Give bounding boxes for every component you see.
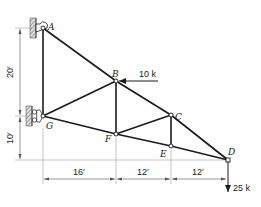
dim-12ft-2: 12′ [192, 167, 204, 177]
member-GB [43, 81, 116, 116]
joint-label-D: D [227, 147, 235, 157]
joint-label-A: A [47, 22, 55, 32]
dim-12ft-1: 12′ [137, 167, 149, 177]
truss-diagram: A G B F C E D 10 k 25 k 20′ 10′ 16′ 12′ … [0, 0, 261, 207]
joint-F [114, 132, 118, 136]
member-GF [43, 116, 116, 134]
joint-E [169, 144, 173, 148]
roller-icon [32, 110, 36, 114]
joint-A [41, 26, 45, 30]
joint-label-C: C [175, 112, 182, 122]
joint-D [226, 158, 230, 162]
member-FC [116, 115, 171, 134]
joint-label-E: E [159, 149, 167, 159]
load-D: 25 k [228, 162, 251, 193]
dim-20ft: 20′ [5, 66, 15, 78]
load-label-D: 25 k [233, 183, 251, 193]
vertical-dimensions: 20′ 10′ [5, 29, 20, 159]
member-AB [43, 28, 116, 81]
member-FE [116, 134, 171, 146]
joint-label-G: G [46, 121, 53, 131]
support-G [26, 106, 43, 126]
roller-icon [32, 118, 36, 122]
joint-C [169, 113, 173, 117]
load-label-B: 10 k [139, 69, 157, 79]
horizontal-dimensions: 16′ 12′ 12′ [44, 167, 226, 179]
extension-lines [15, 28, 228, 184]
joint-B [114, 79, 118, 83]
dim-10ft: 10′ [5, 132, 15, 144]
load-B: 10 k [119, 69, 158, 81]
member-BC [116, 81, 171, 115]
dim-16ft: 16′ [73, 167, 85, 177]
truss-members [43, 28, 228, 160]
joint-label-B: B [111, 69, 119, 79]
joint-label-F: F [104, 134, 112, 144]
joint-G [41, 114, 45, 118]
